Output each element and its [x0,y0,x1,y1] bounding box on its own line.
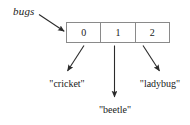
array-box: 0 1 2 [66,22,170,43]
array-cell-1: 1 [101,23,135,42]
variable-name-label: bugs [13,5,35,18]
array-cell-2: 2 [136,23,169,42]
array-diagram: bugs 0 1 2 "cricket" "beetle" "ladybug" [0,0,190,125]
pointer-arrow-bugs [39,15,64,32]
arrows-layer [0,0,190,125]
value-label-1: "beetle" [99,104,131,116]
value-arrow-2 [143,46,160,72]
value-arrow-0 [68,46,85,72]
value-label-0: "cricket" [49,78,84,90]
value-label-2: "ladybug" [140,78,180,90]
array-cell-0: 0 [67,23,101,42]
